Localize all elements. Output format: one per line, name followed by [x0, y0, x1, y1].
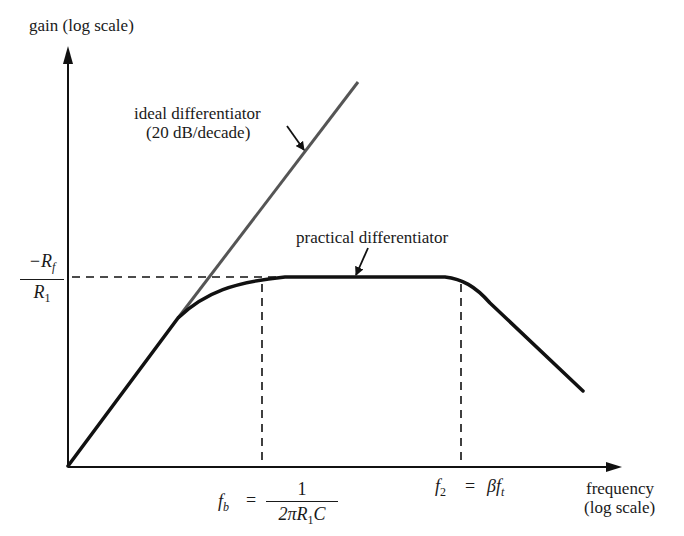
gain-numerator: −Rf — [20, 250, 64, 278]
f2-rhs: βft — [487, 477, 504, 502]
practical-annotation-arrow-icon — [356, 248, 368, 275]
x-axis — [68, 462, 622, 472]
ideal-annotation-arrow-icon — [287, 126, 304, 150]
y-axis-label: gain (log scale) — [29, 16, 134, 35]
bode-diagram: gain (log scale) frequency (log scale) i… — [0, 0, 684, 536]
gain-level-label: −Rf R1 — [20, 250, 64, 309]
fb-label: fb = 1 2πR1C — [218, 478, 358, 528]
x-axis-label-line2: (log scale) — [584, 498, 655, 517]
fraction-bar — [20, 279, 64, 280]
gain-denominator: R1 — [20, 281, 64, 309]
x-axis-arrow-icon — [606, 462, 622, 472]
fb-numerator: 1 — [266, 478, 338, 500]
practical-differentiator-curve — [68, 277, 583, 466]
x-axis-label-line1: frequency — [586, 479, 654, 498]
f2-equals: = — [465, 477, 475, 496]
fraction-bar — [266, 501, 338, 502]
f2-label: f2 = βft — [435, 477, 555, 507]
fb-lhs: fb — [218, 492, 229, 517]
y-axis-arrow-icon — [63, 46, 73, 64]
ideal-annotation-line2: (20 dB/decade) — [146, 123, 250, 142]
f2-lhs: f2 — [435, 477, 446, 502]
fb-equals: = — [246, 491, 256, 510]
ideal-annotation-line1: ideal differentiator — [134, 104, 261, 123]
fb-denominator: 2πR1C — [266, 503, 338, 531]
practical-annotation: practical differentiator — [296, 228, 448, 247]
y-axis — [63, 46, 73, 467]
diagram-canvas — [0, 0, 684, 536]
fb-fraction: 1 2πR1C — [266, 478, 338, 531]
